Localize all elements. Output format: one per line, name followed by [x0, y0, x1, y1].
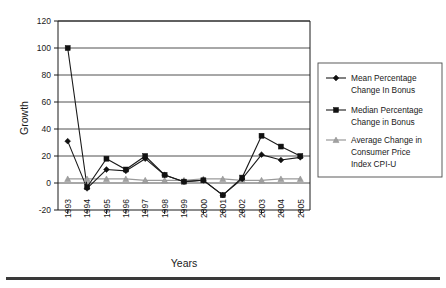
x-tick-label-2005: 2005 — [296, 199, 306, 218]
data-point-square-1996 — [123, 167, 128, 172]
data-point-diamond-2004 — [278, 157, 284, 163]
y-axis-title: Growth — [18, 101, 30, 135]
data-point-square-2002 — [240, 175, 245, 180]
y-tick-label: 0 — [46, 178, 51, 188]
legend-label-2-line-1: Consumer Price — [351, 147, 411, 157]
data-point-square-1995 — [104, 156, 109, 161]
y-tick-label: 40 — [42, 124, 52, 134]
legend-label-1-line-1: Change in Bonus — [351, 117, 415, 127]
data-point-square-1998 — [162, 172, 167, 177]
data-point-square-2001 — [220, 193, 225, 198]
data-point-square-1997 — [143, 154, 148, 159]
data-point-square-1993 — [65, 46, 70, 51]
legend-label-0-line-1: Change In Bonus — [351, 85, 415, 95]
gridlines — [58, 21, 310, 183]
data-point-diamond-1993 — [65, 138, 71, 144]
y-tick-label: -20 — [39, 205, 52, 215]
x-tick-label-1994: 1994 — [82, 199, 92, 218]
legend-label-1-line-0: Median Percentage — [351, 105, 423, 115]
x-tick-label-1996: 1996 — [121, 199, 131, 218]
chart-figure: -20020406080100120 199319941995199619971… — [0, 0, 446, 288]
x-tick-label-1993: 1993 — [63, 199, 73, 218]
data-point-square-2000 — [201, 178, 206, 183]
y-axis-ticks: -20020406080100120 — [37, 16, 58, 215]
x-axis-ticks: 1993199419951996199719981999200020012002… — [63, 199, 306, 218]
x-axis-title: Years — [171, 257, 197, 269]
data-point-square-2004 — [278, 144, 283, 149]
legend-label-2-line-0: Average Change in — [351, 135, 422, 145]
data-point-square-1999 — [182, 179, 187, 184]
growth-line-chart: -20020406080100120 199319941995199619971… — [0, 0, 446, 288]
x-tick-label-1995: 1995 — [102, 199, 112, 218]
y-tick-label: 100 — [37, 43, 51, 53]
y-tick-label: 80 — [42, 70, 52, 80]
legend-label-0-line-0: Mean Percentage — [351, 73, 417, 83]
y-tick-label: 120 — [37, 16, 51, 26]
bottom-divider-rule — [6, 277, 440, 280]
x-tick-label-2001: 2001 — [218, 199, 228, 218]
x-tick-label-2003: 2003 — [257, 199, 267, 218]
x-tick-label-1999: 1999 — [179, 199, 189, 218]
x-tick-label-2002: 2002 — [237, 199, 247, 218]
data-point-square-1994 — [85, 185, 90, 190]
legend-marker-square — [334, 108, 339, 113]
x-tick-label-2004: 2004 — [276, 199, 286, 218]
x-tick-label-1997: 1997 — [140, 199, 150, 218]
legend-label-2-line-2: Index CPI-U — [351, 159, 396, 169]
series-line-diamond — [68, 141, 301, 195]
x-tick-label-1998: 1998 — [160, 199, 170, 218]
x-tick-label-2000: 2000 — [199, 199, 209, 218]
data-point-square-2003 — [259, 133, 264, 138]
y-tick-label: 60 — [42, 97, 52, 107]
data-series — [65, 46, 304, 199]
y-tick-label: 20 — [42, 151, 52, 161]
data-point-square-2005 — [298, 154, 303, 159]
